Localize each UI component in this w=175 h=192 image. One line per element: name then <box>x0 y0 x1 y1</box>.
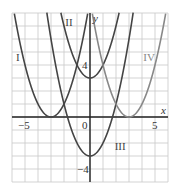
x-axis-label: x <box>160 104 166 116</box>
curve-label-I: I <box>16 51 20 63</box>
curve-label-III: III <box>115 140 126 152</box>
curve-label-IV: IV <box>143 51 155 63</box>
parabola-graph: IIIIIIIV−5054−4xy <box>0 0 175 192</box>
y-axis-label: y <box>92 12 98 24</box>
x-tick-label: 5 <box>152 119 158 131</box>
labels: IIIIIIIV−5054−4xy <box>16 12 166 175</box>
y-tick-label: −4 <box>77 163 89 175</box>
y-tick-label: 4 <box>82 59 88 71</box>
curve-label-II: II <box>65 16 73 28</box>
x-tick-label: −5 <box>18 119 30 131</box>
x-tick-label: 0 <box>82 119 88 131</box>
